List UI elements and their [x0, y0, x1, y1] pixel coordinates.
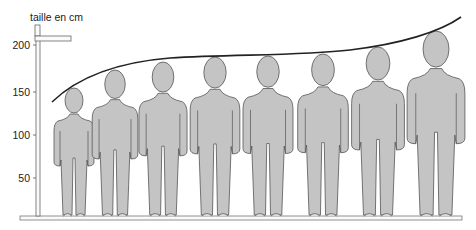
floor [20, 216, 462, 220]
person-figure-8 [407, 31, 465, 216]
head [257, 56, 280, 87]
head [204, 57, 226, 88]
head [105, 70, 126, 99]
head [423, 31, 449, 67]
person-figure-2 [92, 70, 138, 216]
head [312, 54, 335, 86]
head [366, 47, 390, 80]
figures-group [54, 31, 465, 216]
drawing-canvas [0, 0, 476, 230]
person-figure-1 [54, 88, 94, 216]
person-figure-4 [190, 57, 240, 216]
person-figure-7 [352, 47, 405, 216]
head [152, 62, 174, 92]
person-figure-6 [298, 54, 349, 216]
height-diagram: taille en cm 200 150 100 50 [0, 0, 476, 230]
head [65, 88, 83, 113]
person-figure-3 [139, 62, 187, 216]
person-figure-5 [243, 56, 293, 216]
